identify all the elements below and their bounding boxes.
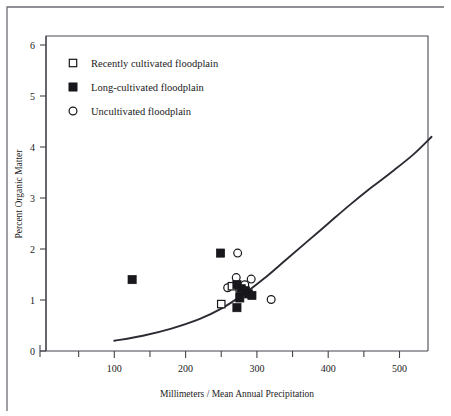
- y-tick-label: 1: [30, 295, 35, 306]
- data-point-marker: [234, 249, 242, 257]
- y-axis-title: Percent Organic Matter: [14, 149, 24, 239]
- legend-marker-open-circle: [69, 107, 77, 115]
- x-tick-label: 100: [107, 363, 122, 374]
- y-axis-ticks: 0123456: [30, 40, 46, 357]
- y-axis: 0123456: [30, 36, 46, 357]
- series-filled-square: [128, 249, 256, 312]
- legend-item-label: Recently cultivated floodplain: [91, 58, 219, 69]
- x-tick-label: 200: [178, 363, 193, 374]
- scatter-plot-figure: 0123456 100200300400500 Millimeters / Me…: [0, 0, 451, 416]
- y-tick-label: 2: [30, 244, 35, 255]
- data-markers-layer: [128, 249, 275, 312]
- x-tick-label: 400: [321, 363, 336, 374]
- legend-marker-filled-square: [69, 83, 77, 91]
- x-tick-label: 500: [392, 363, 407, 374]
- y-tick-label: 6: [30, 40, 35, 51]
- data-point-marker: [248, 291, 256, 299]
- trend-curve-group: [114, 137, 431, 341]
- x-tick-label: 300: [249, 363, 264, 374]
- data-point-marker: [218, 300, 225, 307]
- data-point-marker: [128, 276, 136, 284]
- legend-item: Recently cultivated floodplain: [69, 58, 219, 69]
- legend-item: Uncultivated floodplain: [69, 106, 192, 117]
- figure-root: 0123456 100200300400500 Millimeters / Me…: [0, 0, 451, 416]
- legend-item-label: Uncultivated floodplain: [91, 106, 192, 117]
- data-point-marker: [236, 294, 244, 302]
- chart-legend: Recently cultivated floodplainLong-culti…: [69, 58, 219, 117]
- trend-curve: [114, 137, 431, 341]
- data-point-marker: [216, 249, 224, 257]
- data-point-marker: [233, 304, 241, 312]
- y-tick-label: 0: [30, 346, 35, 357]
- y-tick-label: 3: [30, 193, 35, 204]
- x-axis: 100200300400500: [40, 345, 428, 374]
- x-axis-ticks: 100200300400500: [40, 345, 407, 374]
- legend-item-label: Long-cultivated floodplain: [91, 82, 205, 93]
- legend-item: Long-cultivated floodplain: [69, 82, 205, 93]
- x-axis-title: Millimeters / Mean Annual Precipitation: [160, 389, 314, 399]
- y-tick-label: 4: [30, 142, 35, 153]
- y-tick-label: 5: [30, 91, 35, 102]
- data-point-marker: [247, 275, 255, 283]
- legend-marker-open-square: [69, 59, 76, 66]
- data-point-marker: [267, 296, 275, 304]
